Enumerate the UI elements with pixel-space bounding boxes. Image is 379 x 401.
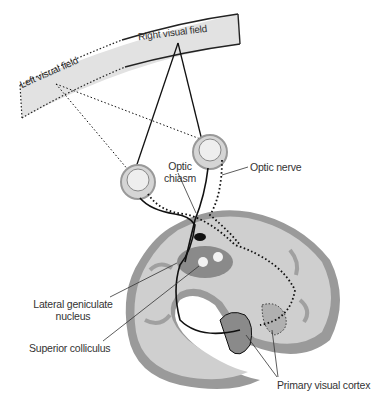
label-optic-nerve: Optic nerve xyxy=(250,161,302,173)
label-optic-chiasm-line1: Optic xyxy=(160,160,200,172)
label-superior-colliculus: Superior colliculus xyxy=(29,342,110,354)
label-primary-visual-cortex: Primary visual cortex xyxy=(277,379,370,391)
left-eye xyxy=(121,165,155,199)
visual-pathway-diagram xyxy=(0,0,379,401)
label-optic-chiasm: Optic chiasm xyxy=(160,160,200,184)
label-lgn-line2: nucleus xyxy=(30,310,116,322)
label-lateral-geniculate-nucleus: Lateral geniculate nucleus xyxy=(30,298,116,322)
label-lgn-line1: Lateral geniculate xyxy=(30,298,116,310)
label-optic-chiasm-line2: chiasm xyxy=(160,172,200,184)
